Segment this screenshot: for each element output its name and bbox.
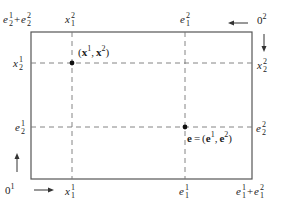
origin1-up-arrow-icon: [15, 153, 20, 172]
label-left-e2-1: e12: [15, 120, 25, 136]
label-right-x2-2: x22: [257, 58, 267, 74]
label-bottom-e1-1: e11: [179, 184, 189, 200]
origin2-left-arrow-icon: [228, 21, 248, 26]
endowment-point-dot: [183, 125, 188, 130]
origin1-right-arrow-icon: [34, 188, 54, 193]
allocation-point-dot: [70, 61, 75, 66]
edgeworth-box-diagram: [0, 0, 284, 206]
label-top-left-corner: e12+e22: [3, 12, 31, 28]
label-right-e2-2: e22: [256, 121, 266, 137]
label-bottom-right-corner: e11+e21: [236, 184, 264, 200]
label-bottom-x1-1: x11: [65, 184, 75, 200]
edgeworth-box-frame: [31, 32, 252, 179]
label-left-x2-1: x12: [13, 56, 23, 72]
label-origin-2: 02: [257, 15, 267, 26]
origin2-down-arrow-icon: [262, 34, 267, 52]
label-origin-1: 01: [5, 185, 15, 196]
label-endowment-point: e=(e1,e2): [187, 133, 232, 144]
label-allocation-point: (x1,x2): [78, 47, 109, 58]
label-top-x1-2: x21: [65, 12, 75, 28]
label-top-e1-2: e21: [180, 12, 190, 28]
